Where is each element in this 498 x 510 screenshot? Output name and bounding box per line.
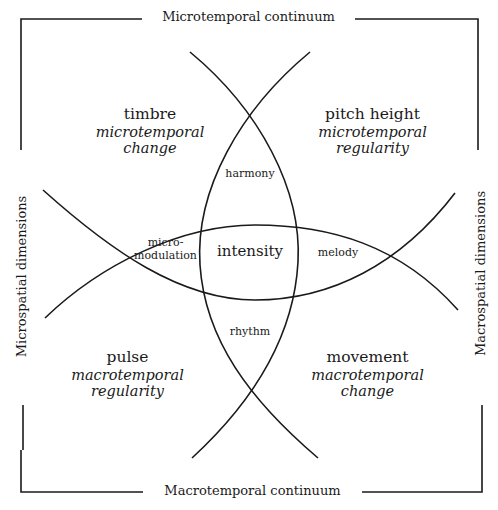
quadrant-subtitle: regularity: [55, 383, 200, 400]
quadrant-subtitle: microtemporal: [300, 124, 445, 141]
quadrant-pulse: pulse macrotemporal regularity: [55, 349, 200, 400]
edge-label-left: Microspatial dimensions: [14, 187, 29, 367]
quadrant-title: pulse: [55, 349, 200, 367]
quadrant-pitch-height: pitch height microtemporal regularity: [300, 106, 445, 157]
edge-label-right: Macrospatial dimensions: [473, 184, 488, 364]
quadrant-subtitle: macrotemporal: [55, 367, 200, 384]
frame-top-left: [21, 19, 142, 60]
region-micromodulation-line1: micro-: [128, 237, 203, 250]
quadrant-title: pitch height: [300, 106, 445, 124]
quadrant-movement: movement macrotemporal change: [295, 349, 440, 400]
region-melody: melody: [306, 247, 370, 260]
quadrant-subtitle: change: [80, 140, 220, 157]
region-micromodulation: micro- modulation: [128, 237, 203, 262]
quadrant-subtitle: macrotemporal: [295, 367, 440, 384]
region-rhythm: rhythm: [215, 326, 285, 339]
edge-label-bottom: Macrotemporal continuum: [143, 484, 362, 499]
quadrant-subtitle: microtemporal: [80, 124, 220, 141]
edge-label-top: Microtemporal continuum: [142, 10, 355, 25]
quadrant-timbre: timbre microtemporal change: [80, 106, 220, 157]
quadrant-title: timbre: [80, 106, 220, 124]
arc-horizontal-upper: [45, 225, 458, 318]
quadrant-subtitle: regularity: [300, 140, 445, 157]
frame-bottom-left: [21, 450, 143, 492]
quadrant-subtitle: change: [295, 383, 440, 400]
region-micromodulation-line2: modulation: [128, 250, 203, 263]
frame-top-right: [355, 19, 478, 60]
region-harmony: harmony: [215, 168, 285, 181]
quadrant-title: movement: [295, 349, 440, 367]
frame-bottom-right: [362, 450, 482, 492]
region-intensity: intensity: [205, 243, 295, 260]
